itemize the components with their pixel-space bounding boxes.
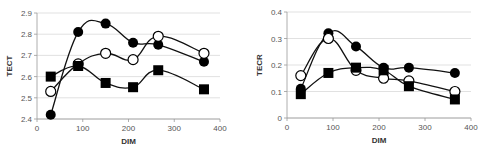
y-axis-label: TECT	[5, 55, 14, 76]
square-marker	[199, 84, 209, 94]
square-marker	[296, 89, 306, 99]
filled-circle-marker	[46, 110, 56, 120]
x-tick-label: 200	[122, 124, 136, 133]
x-tick-label: 0	[35, 124, 40, 133]
square-marker	[46, 72, 56, 82]
square-marker	[379, 65, 389, 75]
filled-circle-marker	[73, 27, 83, 37]
filled-circle-marker	[450, 68, 460, 78]
square-marker	[323, 68, 333, 78]
y-tick-label: 2.7	[21, 51, 33, 60]
open-circle-marker	[46, 86, 56, 96]
square-marker	[404, 81, 414, 91]
square-marker	[73, 61, 83, 71]
y-tick-label: 0.4	[271, 8, 283, 17]
square-marker	[128, 82, 138, 92]
x-tick-label: 100	[76, 124, 90, 133]
open-circle-marker	[323, 34, 333, 44]
y-tick-label: 2.6	[21, 73, 33, 82]
y-tick-label: 2.9	[21, 9, 33, 18]
y-tick-label: 2.8	[21, 30, 33, 39]
open-circle-marker	[296, 71, 306, 81]
filled-circle-marker	[404, 63, 414, 73]
y-tick-label: 0.3	[271, 35, 283, 44]
x-tick-label: 300	[418, 123, 432, 132]
x-axis-label: DIM	[121, 137, 136, 146]
x-tick-label: 100	[326, 123, 340, 132]
filled-circle-marker	[101, 19, 111, 29]
x-tick-label: 300	[168, 124, 182, 133]
x-tick-label: 0	[285, 123, 290, 132]
x-tick-label: 400	[464, 123, 478, 132]
filled-circle-marker	[351, 41, 361, 51]
x-tick-label: 400	[213, 124, 227, 133]
square-marker	[450, 94, 460, 104]
x-axis-label: DIM	[372, 136, 387, 145]
chart-tecr: 00.10.20.30.40100200300400DIMTECR	[255, 8, 478, 145]
open-circle-marker	[153, 31, 163, 41]
y-tick-label: 0.1	[271, 88, 283, 97]
y-tick-label: 2.5	[21, 94, 33, 103]
square-marker	[153, 65, 163, 75]
y-tick-label: 0	[278, 114, 283, 123]
square-marker	[101, 78, 111, 88]
filled-circle-marker	[128, 38, 138, 48]
y-axis-label: TECR	[255, 54, 264, 76]
y-tick-label: 0.2	[271, 61, 283, 70]
open-circle-marker	[128, 55, 138, 65]
open-circle-marker	[101, 48, 111, 58]
square-marker	[351, 63, 361, 73]
chart-canvas: 2.42.52.62.72.82.90100200300400DIMTECT00…	[0, 0, 488, 152]
open-circle-marker	[199, 48, 209, 58]
x-tick-label: 200	[372, 123, 386, 132]
chart-tect: 2.42.52.62.72.82.90100200300400DIMTECT	[5, 9, 227, 146]
figure: 2.42.52.62.72.82.90100200300400DIMTECT00…	[0, 0, 488, 152]
y-tick-label: 2.4	[21, 115, 33, 124]
